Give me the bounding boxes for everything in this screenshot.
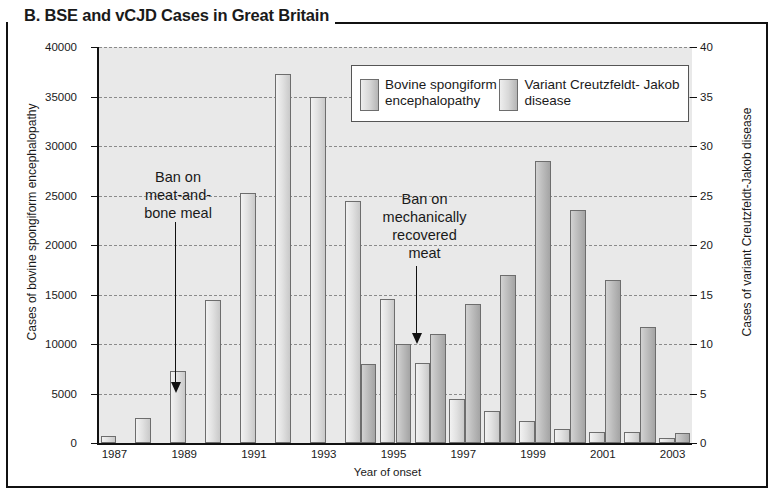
legend-label-bse: Bovine spongiform encephalopathy [385,77,499,109]
bar-vcjd-1994 [361,364,377,443]
y-tick-mark-right [690,443,697,444]
annotation-arrow-head [412,333,422,344]
y-tick-mark-left [91,295,97,296]
annotation-arrow-head [171,382,181,393]
bar-bse-1990 [205,300,221,443]
y-tick-label-left-10000: 10000 [45,338,77,350]
bar-bse-2001 [589,432,605,443]
bar-vcjd-1996 [430,334,446,443]
annotation-meat-and-bone-meal-ban: Ban on meat-and- bone meal [108,168,248,222]
y-tick-label-left-5000: 5000 [51,388,77,400]
y-tick-mark-left [91,47,97,48]
figure-panel: B. BSE and vCJD Cases in Great Britain 0… [0,0,775,496]
bar-bse-1996 [415,363,431,443]
x-axis-label: Year of onset [0,466,775,478]
y-tick-label-right-40: 40 [700,41,713,53]
y-tick-mark-left [91,146,97,147]
bar-vcjd-1999 [535,161,551,443]
y-tick-label-left-0: 0 [71,437,77,449]
y-tick-mark-right [690,295,697,296]
x-tick-label-1999: 1999 [520,448,546,460]
bar-vcjd-1995 [396,344,412,443]
annotation-mechanically-recovered-meat-ban: Ban on mechanically recovered meat [337,190,512,262]
x-tick-label-1993: 1993 [311,448,337,460]
annotation-arrow-line [175,222,176,382]
x-tick-label-1989: 1989 [171,448,197,460]
y-tick-mark-left [91,196,97,197]
gridline [99,295,692,296]
y-tick-mark-right [690,47,697,48]
y-tick-label-left-25000: 25000 [45,190,77,202]
y-tick-label-right-10: 10 [700,338,713,350]
annotation-arrow-line [416,266,417,333]
y-tick-mark-right [690,394,697,395]
x-tick-label-1991: 1991 [241,448,267,460]
frame-border-top [324,22,768,24]
y-tick-label-right-0: 0 [700,437,706,449]
y-tick-mark-left [91,344,97,345]
panel-title: B. BSE and vCJD Cases in Great Britain [20,6,335,25]
legend-swatch-vcjd [499,79,518,111]
legend: Bovine spongiform encephalopathy Variant… [351,65,689,122]
bar-vcjd-1998 [500,275,516,443]
bar-vcjd-1997 [465,304,481,443]
bar-bse-1993 [310,97,326,444]
y-tick-label-right-20: 20 [700,239,713,251]
y-tick-label-left-30000: 30000 [45,140,77,152]
gridline [99,146,692,147]
y-tick-label-left-40000: 40000 [45,41,77,53]
y-tick-label-left-20000: 20000 [45,239,77,251]
bar-bse-2000 [554,429,570,443]
x-tick-label-1987: 1987 [102,448,128,460]
y-tick-mark-left [91,443,97,444]
legend-item-vcjd: Variant Creutzfeldt- Jakob disease [499,77,680,111]
bar-bse-2002 [624,432,640,443]
legend-swatch-bse [360,79,379,111]
y-tick-label-left-35000: 35000 [45,91,77,103]
y-tick-label-right-30: 30 [700,140,713,152]
y-tick-mark-right [690,97,697,98]
bar-vcjd-2000 [570,210,586,443]
bar-bse-1987 [101,436,117,443]
x-tick-label-1995: 1995 [381,448,407,460]
bar-bse-1988 [135,418,151,443]
x-tick-label-1997: 1997 [450,448,476,460]
bar-bse-1995 [380,299,396,443]
bar-bse-1998 [484,411,500,443]
y-tick-mark-left [91,394,97,395]
y-tick-mark-left [91,245,97,246]
bar-bse-1999 [519,421,535,443]
y-axis-left-label: Cases of bovine spongiform encephalopath… [25,42,39,402]
y-tick-mark-right [690,196,697,197]
y-tick-label-right-5: 5 [700,388,706,400]
bar-bse-1992 [275,74,291,443]
legend-label-vcjd: Variant Creutzfeldt- Jakob disease [524,77,680,109]
y-tick-label-left-15000: 15000 [45,289,77,301]
x-tick-label-2001: 2001 [590,448,616,460]
y-tick-label-right-15: 15 [700,289,713,301]
y-axis-right-label: Cases of variant Creutzfeldt-Jakob disea… [740,42,754,402]
bar-bse-1997 [449,399,465,443]
y-tick-mark-left [91,97,97,98]
bar-bse-2003 [659,438,675,443]
frame-border-right [766,22,768,488]
bar-vcjd-2002 [640,327,656,443]
bar-bse-1991 [240,193,256,443]
frame-border-left [6,22,8,488]
bar-vcjd-2003 [675,433,691,443]
y-tick-mark-right [690,344,697,345]
y-tick-mark-right [690,245,697,246]
y-tick-label-right-25: 25 [700,190,713,202]
y-tick-mark-right [690,146,697,147]
frame-border-bottom [6,486,768,488]
x-tick-label-2003: 2003 [660,448,686,460]
gridline [99,47,692,48]
bar-vcjd-2001 [605,280,621,443]
legend-item-bse: Bovine spongiform encephalopathy [360,77,499,111]
y-tick-label-right-35: 35 [700,91,713,103]
